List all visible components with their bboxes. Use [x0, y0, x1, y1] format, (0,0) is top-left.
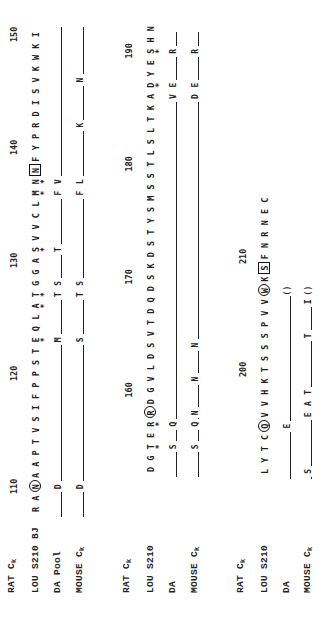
substitution: T	[304, 387, 313, 398]
row-label-da: DA	[282, 581, 292, 593]
residue: D	[31, 108, 41, 119]
residue: K	[31, 63, 41, 74]
substitution: D	[54, 481, 63, 492]
substitution: R	[169, 46, 178, 57]
residue: S	[146, 238, 156, 249]
position-number: 170	[124, 262, 134, 292]
substitution: E	[169, 80, 178, 91]
residue: F	[31, 391, 41, 402]
residue: I	[31, 97, 41, 108]
substitution: T	[54, 289, 63, 300]
substitution: K	[76, 120, 85, 131]
row-label-da: DA	[168, 581, 178, 593]
residue: T	[146, 159, 156, 170]
substitution: Q	[191, 419, 200, 430]
residue-circled: R	[146, 407, 156, 418]
residue: S	[146, 339, 156, 350]
residue: P	[31, 368, 41, 379]
substitution: I	[304, 296, 313, 307]
row-label-mouse-ck: MOUSE Ck	[75, 546, 87, 593]
substitution: E	[283, 421, 292, 432]
residue: L	[31, 312, 41, 323]
substitution: D	[191, 91, 200, 102]
residue: P	[260, 319, 270, 330]
substitution: S	[76, 334, 85, 345]
identity-line	[290, 294, 291, 479]
residue: Y	[146, 215, 156, 226]
residue: G	[31, 266, 41, 277]
row-label-text: DA	[281, 581, 292, 593]
substitution: ()	[283, 285, 292, 296]
substitution: M	[54, 334, 63, 345]
residue: N	[260, 240, 270, 251]
row-label-text: DA	[167, 581, 178, 593]
substitution: S	[76, 278, 85, 289]
position-number: 140	[9, 132, 19, 162]
row-label-lou-s210: LOU S210	[146, 545, 156, 593]
residue: R	[31, 504, 41, 515]
substitution: N	[191, 373, 200, 384]
residue: S	[31, 413, 41, 424]
row-label-mouse-ck: MOUSE Ck	[190, 546, 202, 593]
row-label-subscript: k	[239, 558, 247, 563]
residue: T	[146, 113, 156, 124]
residue: V	[31, 425, 41, 436]
residue: E	[260, 206, 270, 217]
row-label-text: LOU S210 BJ	[30, 527, 41, 593]
substitution: S	[304, 466, 313, 477]
asterisk-marker: *	[42, 289, 48, 300]
row-label-text: LOU S210	[259, 545, 270, 593]
position-number: 180	[124, 149, 134, 179]
residue: D	[146, 249, 156, 260]
residue: T	[260, 364, 270, 375]
residue: Y	[260, 454, 270, 465]
asterisk-marker: *	[42, 244, 48, 255]
residue: A	[31, 255, 41, 266]
residue: G	[31, 278, 41, 289]
residue: A	[31, 470, 41, 481]
residue: Q	[31, 323, 41, 334]
substitution: E	[304, 409, 313, 420]
substitution: N	[191, 407, 200, 418]
position-number: 200	[238, 354, 248, 384]
asterisk-marker: *	[42, 176, 48, 187]
residue: E	[146, 57, 156, 68]
residue: N	[146, 23, 156, 34]
residue: T	[260, 443, 270, 454]
position-number: 130	[9, 245, 19, 275]
asterisk-marker: *	[157, 46, 163, 57]
residue: S	[146, 181, 156, 192]
position-number: 190	[124, 36, 134, 66]
residue: A	[31, 492, 41, 503]
substitution: T	[304, 330, 313, 341]
row-label-rat-ck: RAT Ck	[7, 558, 19, 593]
identity-line	[61, 27, 62, 517]
asterisk-marker: *	[157, 419, 163, 430]
row-label-subscript: k	[78, 546, 86, 551]
residue: E	[146, 430, 156, 441]
residue: K	[260, 375, 270, 386]
row-label-text: RAT C	[235, 563, 246, 593]
asterisk-marker: *	[157, 441, 163, 452]
substitution: Q	[169, 419, 178, 430]
residue: T	[146, 226, 156, 237]
residue: I	[31, 29, 41, 40]
row-label-text: DA Pool	[52, 551, 63, 593]
residue-boxed: N	[31, 165, 41, 176]
residue: H	[260, 387, 270, 398]
row-label-text: RAT C	[6, 563, 17, 593]
residue: V	[146, 373, 156, 384]
position-number: 150	[9, 19, 19, 49]
residue: S	[260, 353, 270, 364]
residue: W	[31, 52, 41, 63]
residue: S	[146, 136, 156, 147]
residue-circled: Q	[260, 421, 270, 432]
residue-boxed: S	[260, 262, 270, 273]
residue: R	[31, 120, 41, 131]
residue: Y	[31, 142, 41, 153]
residue-circled: N	[31, 481, 41, 492]
substitution: T	[76, 289, 85, 300]
residue: S	[31, 86, 41, 97]
residue: P	[31, 131, 41, 142]
position-number: 120	[9, 358, 19, 388]
